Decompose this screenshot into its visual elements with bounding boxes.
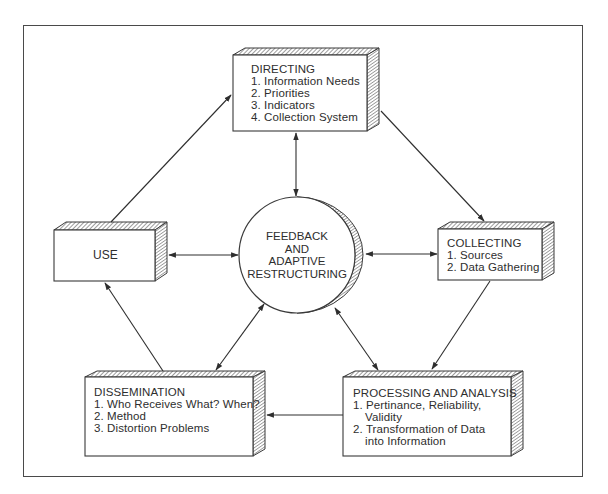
directing-item: 2. Priorities — [251, 87, 360, 99]
directing-title: DIRECTING — [251, 63, 360, 75]
directing-item: 4. Collection System — [251, 111, 360, 123]
feedback-text: FEEDBACK AND ADAPTIVE RESTRUCTURING — [237, 230, 357, 280]
dissemination-item: 2. Method — [94, 410, 260, 422]
center-line: ADAPTIVE — [237, 255, 357, 268]
dissemination-item: 1. Who Receives What? When? — [94, 398, 260, 410]
center-line: RESTRUCTURING — [237, 268, 357, 281]
center-line: FEEDBACK — [237, 230, 357, 243]
processing-item: 1. Pertinance, Reliability, — [353, 399, 517, 411]
processing-item: 2. Transformation of Data — [353, 423, 517, 435]
dissemination-text: DISSEMINATION 1. Who Receives What? When… — [94, 386, 260, 434]
collecting-item: 1. Sources — [447, 249, 539, 261]
arrow-dissemination-to-use — [105, 283, 163, 371]
arrow-collecting-to-processing — [432, 281, 490, 369]
use-title: USE — [93, 248, 118, 262]
directing-text: DIRECTING 1. Information Needs 2. Priori… — [251, 63, 360, 123]
processing-item-cont: into Information — [353, 435, 517, 447]
directing-item: 3. Indicators — [251, 99, 360, 111]
dissemination-item: 3. Distortion Problems — [94, 422, 260, 434]
collecting-title: COLLECTING — [447, 237, 539, 249]
collecting-text: COLLECTING 1. Sources 2. Data Gathering — [447, 237, 539, 273]
processing-text: PROCESSING AND ANALYSIS 1. Pertinance, R… — [353, 387, 517, 447]
processing-item-cont: Validity — [353, 411, 517, 423]
directing-item: 1. Information Needs — [251, 75, 360, 87]
dissemination-title: DISSEMINATION — [94, 386, 260, 398]
processing-title: PROCESSING AND ANALYSIS — [353, 387, 517, 399]
arrow-use-to-directing — [111, 95, 231, 222]
arrow-center-processing — [335, 308, 378, 370]
collecting-item: 2. Data Gathering — [447, 261, 539, 273]
arrow-center-dissemination — [216, 304, 264, 370]
arrow-directing-to-collecting — [381, 111, 484, 221]
center-line: AND — [237, 243, 357, 256]
